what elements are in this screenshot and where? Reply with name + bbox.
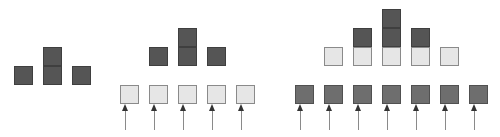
med-square <box>353 85 372 104</box>
dark-square <box>382 9 401 28</box>
dark-square <box>411 28 430 47</box>
light-square <box>411 47 430 66</box>
dark-square <box>178 47 197 66</box>
dark-square <box>353 28 372 47</box>
light-square <box>382 47 401 66</box>
dark-square <box>207 47 226 66</box>
up-arrow-icon <box>237 104 246 130</box>
med-square <box>440 85 459 104</box>
med-square <box>469 85 488 104</box>
light-square <box>236 85 255 104</box>
dark-square <box>43 66 62 85</box>
light-square <box>149 85 168 104</box>
dark-square <box>14 66 33 85</box>
up-arrow-icon <box>121 104 130 130</box>
light-square <box>353 47 372 66</box>
dark-square <box>72 66 91 85</box>
light-square <box>120 85 139 104</box>
up-arrow-icon <box>354 104 363 130</box>
light-square <box>207 85 226 104</box>
up-arrow-icon <box>296 104 305 130</box>
up-arrow-icon <box>383 104 392 130</box>
up-arrow-icon <box>441 104 450 130</box>
dark-square <box>178 28 197 47</box>
up-arrow-icon <box>150 104 159 130</box>
dark-square <box>43 47 62 66</box>
dark-square <box>382 28 401 47</box>
up-arrow-icon <box>208 104 217 130</box>
up-arrow-icon <box>325 104 334 130</box>
up-arrow-icon <box>470 104 479 130</box>
med-square <box>382 85 401 104</box>
dark-square <box>149 47 168 66</box>
light-square <box>324 47 343 66</box>
med-square <box>324 85 343 104</box>
med-square <box>411 85 430 104</box>
up-arrow-icon <box>412 104 421 130</box>
med-square <box>295 85 314 104</box>
light-square <box>178 85 197 104</box>
up-arrow-icon <box>179 104 188 130</box>
light-square <box>440 47 459 66</box>
